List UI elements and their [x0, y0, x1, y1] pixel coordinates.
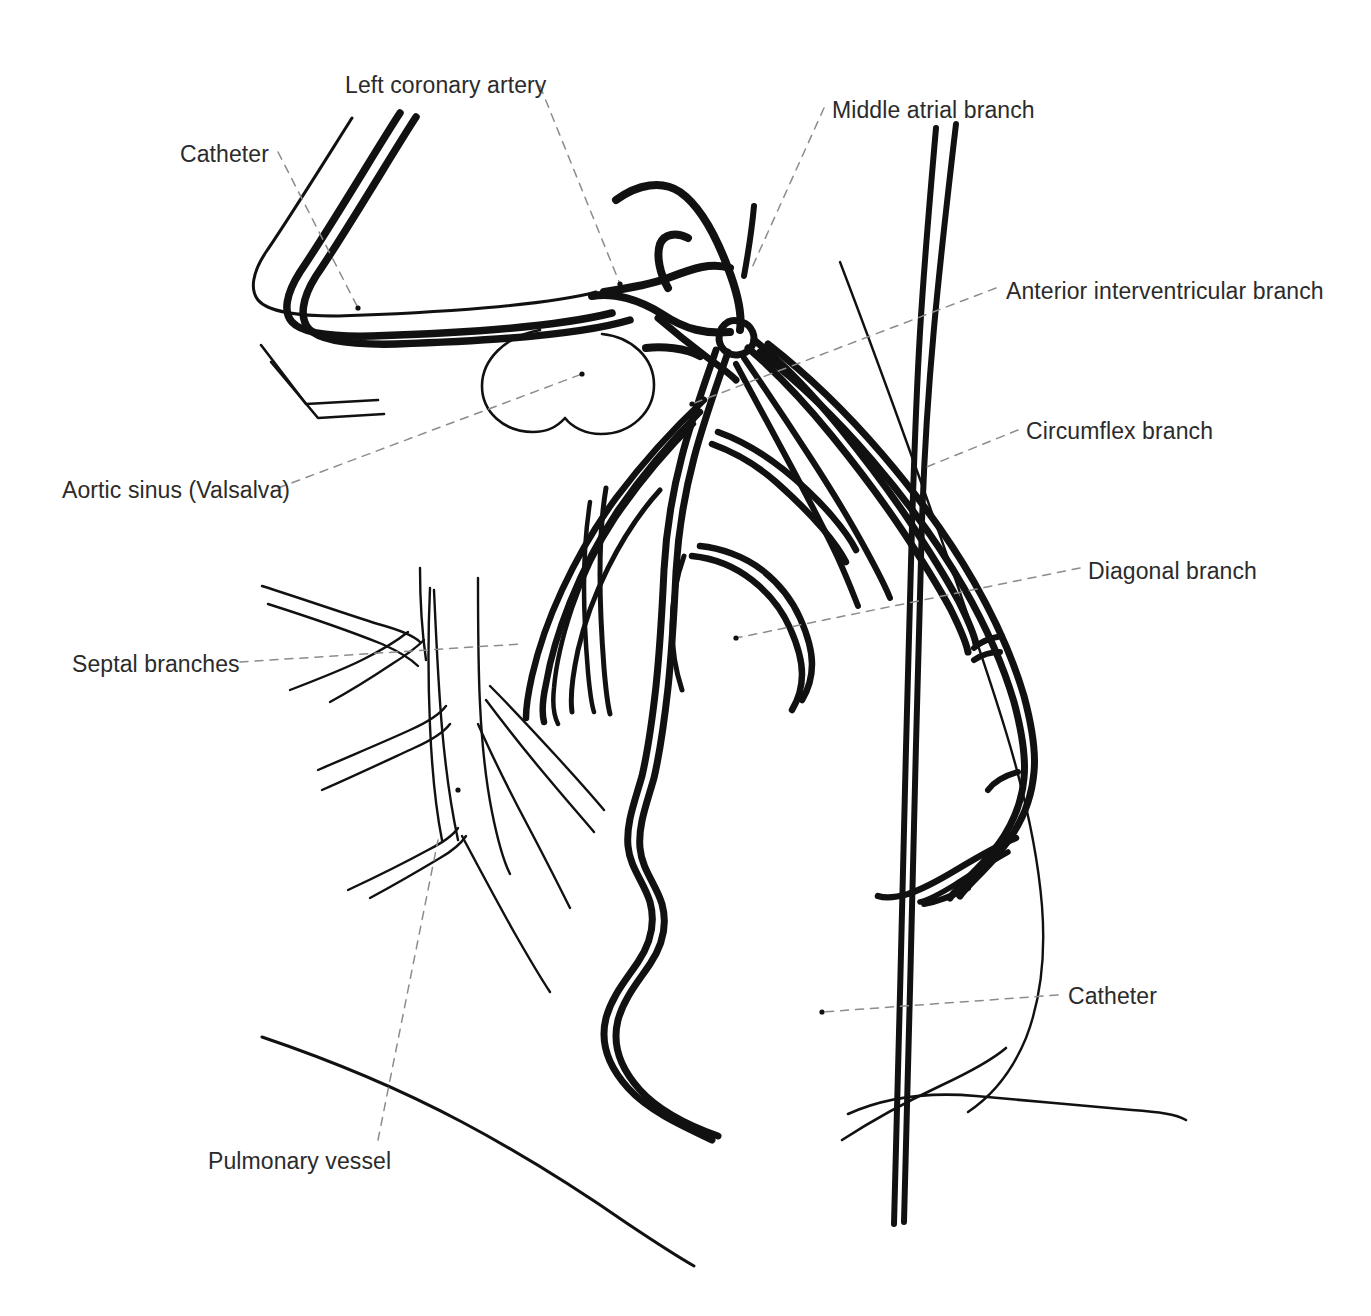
- label-septal-branches: Septal branches: [72, 653, 240, 676]
- label-pulmonary-vessel: Pulmonary vessel: [208, 1150, 391, 1173]
- catheter-hook-shape: [253, 113, 630, 344]
- label-catheter-lower: Catheter: [1068, 985, 1157, 1008]
- aortic-sinus-outline: [482, 330, 654, 434]
- obtuse-branch-shape: [672, 432, 856, 710]
- leader-left-coronary-artery: [540, 86, 620, 284]
- label-diagonal-branch: Diagonal branch: [1088, 560, 1257, 583]
- label-catheter-top: Catheter: [180, 143, 269, 166]
- leader-middle-atrial-branch: [750, 108, 824, 272]
- leader-circumflex-branch: [924, 430, 1018, 468]
- label-aortic-sinus: Aortic sinus (Valsalva): [62, 479, 290, 502]
- label-left-coronary-artery: Left coronary artery: [345, 74, 546, 97]
- label-circumflex-branch: Circumflex branch: [1026, 420, 1213, 443]
- label-anterior-interventricular-branch: Anterior interventricular branch: [1006, 280, 1324, 303]
- aortic-wall-lines: [261, 345, 384, 418]
- catheter-shaft-shape: [894, 124, 956, 1224]
- anterior-interventricular-branch-shape: [604, 350, 728, 1140]
- diagonal-branch-shape: [736, 340, 976, 652]
- label-middle-atrial-branch: Middle atrial branch: [832, 99, 1035, 122]
- pulmonary-vessel-tree: [262, 568, 604, 992]
- figure-canvas: Catheter Left coronary artery Middle atr…: [0, 0, 1371, 1316]
- leader-catheter-lower: [822, 995, 1058, 1012]
